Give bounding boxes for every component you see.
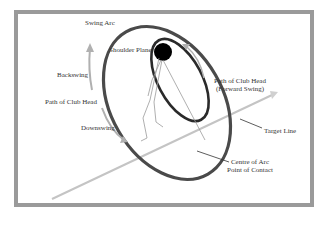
backswing-label: Backswing <box>57 71 88 79</box>
target-line-label: Target Line <box>264 127 296 135</box>
target-line-leader <box>240 119 262 128</box>
swing-arc-label: Swing Arc <box>85 19 115 27</box>
target-line <box>52 95 272 199</box>
path-forward-swing-label: Path of Club Head (Forward Swing) <box>205 77 275 93</box>
downswing-label: Downswing <box>81 124 115 132</box>
shoulder-ball <box>154 43 172 61</box>
path-forward-line2: (Forward Swing) <box>205 85 275 93</box>
path-forward-line1: Path of Club Head <box>205 77 275 85</box>
shoulder-plane-label: Shoulder Plane <box>109 46 152 54</box>
backswing-arrow <box>89 48 92 90</box>
golf-swing-diagram <box>0 0 328 229</box>
backswing-arrowhead <box>86 43 94 52</box>
centre-of-arc-label: Centre of Arc Point of Contact <box>222 158 278 174</box>
centre-line2: Point of Contact <box>222 166 278 174</box>
golfer-figure <box>141 58 205 141</box>
path-of-club-head-label: Path of Club Head <box>45 98 97 106</box>
centre-line1: Centre of Arc <box>222 158 278 166</box>
